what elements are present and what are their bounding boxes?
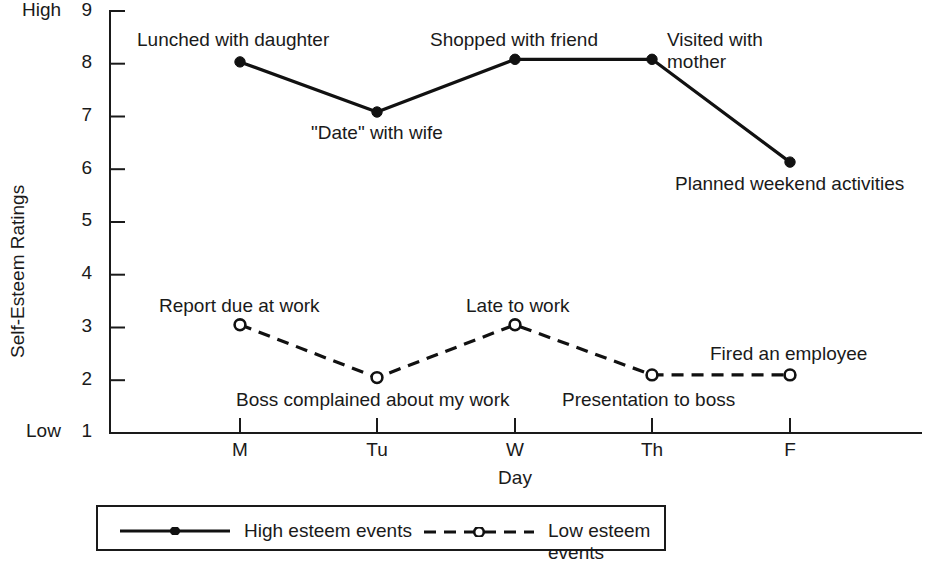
annotation-report-due-at-work: Report due at work xyxy=(159,296,320,316)
chart-plot-area xyxy=(0,0,936,573)
x-tick-label-w: W xyxy=(485,440,545,460)
x-tick-label-f: F xyxy=(760,440,820,460)
annotation-shopped-with-friend: Shopped with friend xyxy=(430,30,598,50)
series-low-point-w xyxy=(510,319,521,330)
legend-label-low-esteem: Low esteem events xyxy=(548,520,664,564)
x-tick-label-tu: Tu xyxy=(347,440,407,460)
x-axis-title: Day xyxy=(485,468,545,488)
y-tick-label-4: 4 xyxy=(58,263,92,283)
y-tick-label-2: 2 xyxy=(58,369,92,389)
series-high-esteem-line xyxy=(240,59,790,162)
y-tick-label-6: 6 xyxy=(58,158,92,178)
legend-label-high-esteem: High esteem events xyxy=(244,520,412,542)
legend-glyph-high-esteem xyxy=(120,527,230,535)
y-tick-label-1: 1 xyxy=(58,421,92,441)
x-tick-label-m: M xyxy=(210,440,270,460)
series-high-point-w xyxy=(510,54,520,64)
y-tick-label-9: 9 xyxy=(58,0,92,20)
y-tick-label-7: 7 xyxy=(58,105,92,125)
annotation-late-to-work: Late to work xyxy=(466,296,570,316)
y-axis-low-label: Low xyxy=(26,421,61,441)
series-high-point-tu xyxy=(372,107,382,117)
annotation-date-with-wife: "Date" with wife xyxy=(311,123,443,143)
y-axis-high-label: High xyxy=(22,0,61,20)
series-low-point-f xyxy=(785,370,796,381)
annotation-boss-complained: Boss complained about my work xyxy=(236,390,510,410)
legend-glyph-low-esteem xyxy=(424,527,534,537)
series-low-point-m xyxy=(235,319,246,330)
chart-container: 9 8 7 6 5 4 3 2 1 High Low Self-Esteem R… xyxy=(0,0,936,573)
series-low-point-th xyxy=(647,370,658,381)
series-high-point-f xyxy=(785,157,795,167)
y-axis-title: Self-Esteem Ratings xyxy=(8,185,28,358)
annotation-lunched-with-daughter: Lunched with daughter xyxy=(137,30,329,50)
y-tick-label-3: 3 xyxy=(58,316,92,336)
series-low-esteem-line xyxy=(240,325,790,378)
annotation-visited-with-mother-line2: mother xyxy=(667,52,726,72)
annotation-visited-with-mother-line1: Visited with xyxy=(667,30,763,50)
y-tick-label-5: 5 xyxy=(58,210,92,230)
chart-legend: High esteem events Low esteem events xyxy=(96,505,666,551)
annotation-fired-an-employee: Fired an employee xyxy=(710,344,867,364)
x-tick-label-th: Th xyxy=(622,440,682,460)
annotation-presentation-to-boss: Presentation to boss xyxy=(562,390,735,410)
series-high-point-th xyxy=(647,54,657,64)
series-high-point-m xyxy=(235,57,245,67)
annotation-planned-weekend-activities: Planned weekend activities xyxy=(675,174,904,194)
y-tick-label-8: 8 xyxy=(58,52,92,72)
series-low-point-tu xyxy=(372,372,383,383)
